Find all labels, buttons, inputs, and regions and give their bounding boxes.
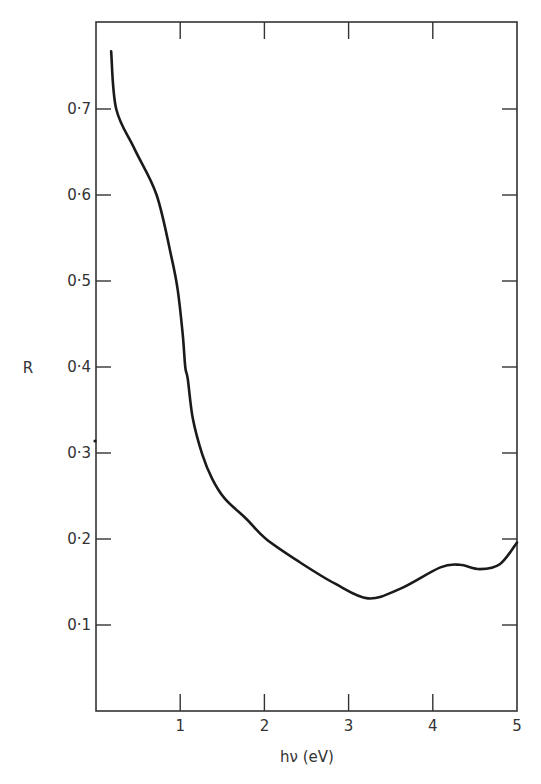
x-axis-label: hν (eV) [280,748,334,766]
x-tick-label: 1 [175,717,185,735]
y-tick-label: 0·3 [67,444,91,462]
y-tick-label: 0·2 [67,530,91,548]
x-tick-label: 2 [260,717,270,735]
y-tick-label: 0·1 [67,616,91,634]
axis-ticks [96,22,517,711]
y-tick-label: 0·4 [67,358,91,376]
y-tick-label: 0·7 [67,100,91,118]
tick-labels: 123450·10·20·30·40·50·60·7 [67,100,522,735]
reflectance-chart: 123450·10·20·30·40·50·60·7 hν (eV) R [0,0,541,784]
y-tick-label: 0·5 [67,272,91,290]
plot-frame [96,22,517,711]
x-tick-label: 5 [512,717,522,735]
x-tick-label: 4 [428,717,438,735]
x-tick-label: 3 [344,717,354,735]
axis-dot-marker [93,439,96,442]
data-curve [111,51,517,598]
y-axis-label: R [23,359,33,377]
y-tick-label: 0·6 [67,186,91,204]
